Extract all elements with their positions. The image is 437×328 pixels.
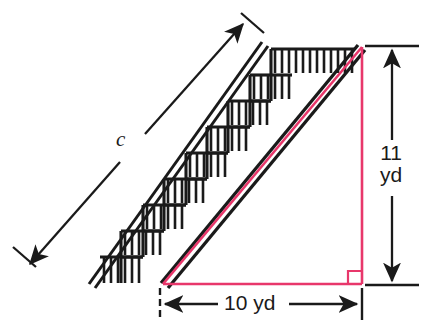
- dim-c-tick-bottom: [13, 247, 36, 267]
- label-hypotenuse-c: c: [116, 128, 125, 150]
- balusters-step-1: [275, 49, 352, 73]
- diagram-canvas: [0, 0, 437, 328]
- dim-c-tick-top: [241, 13, 264, 33]
- geometry-figure: c 11 yd 10 yd: [0, 0, 437, 328]
- label-base-10-yd: 10 yd: [224, 292, 275, 314]
- label-height-11-yd: 11 yd: [380, 142, 402, 186]
- staircase-group: [89, 42, 365, 288]
- right-triangle-overlay: [163, 47, 362, 284]
- dim-c-line-lower: [30, 162, 120, 264]
- right-angle-marker: [348, 271, 361, 284]
- triangle-hypotenuse: [163, 47, 362, 284]
